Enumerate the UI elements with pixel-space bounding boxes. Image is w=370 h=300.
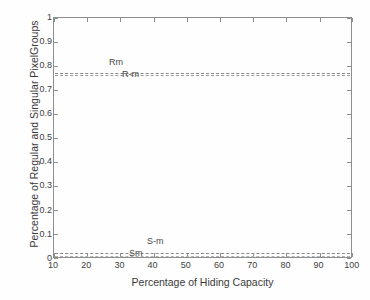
- y-tick-mark-right-09: [347, 42, 351, 43]
- y-tick-mark-right-03: [347, 186, 351, 187]
- y-tick-label-02: 0.2: [39, 206, 52, 215]
- series-line-sm: [55, 256, 350, 257]
- x-tick-mark-top-80: [286, 18, 287, 22]
- x-tick-label-10: 10: [48, 261, 58, 270]
- y-tick-mark-06: [54, 114, 58, 115]
- annotation-rm: Rm: [109, 58, 123, 67]
- x-tick-mark-top-60: [220, 18, 221, 22]
- figure-canvas: Percentage of Regular and Singular Pixel…: [0, 0, 370, 300]
- y-tick-mark-09: [54, 42, 58, 43]
- y-tick-mark-right-1: [347, 18, 351, 19]
- y-tick-mark-02: [54, 210, 58, 211]
- x-tick-label-20: 20: [81, 261, 91, 270]
- x-tick-mark-top-20: [87, 18, 88, 22]
- x-tick-label-60: 60: [214, 261, 224, 270]
- series-line-rm: [55, 73, 350, 74]
- y-tick-label-05: 0.5: [39, 133, 52, 142]
- x-tick-mark-top-30: [120, 18, 121, 22]
- x-tick-label-30: 30: [114, 261, 124, 270]
- y-tick-label-01: 0.1: [39, 230, 52, 239]
- y-tick-label-06: 0.6: [39, 109, 52, 118]
- annotation-sm: Sm: [129, 249, 143, 258]
- x-tick-mark-top-40: [154, 18, 155, 22]
- y-tick-mark-03: [54, 186, 58, 187]
- x-tick-label-100: 100: [344, 261, 359, 270]
- annotation-s-m: S-m: [147, 237, 164, 246]
- y-tick-mark-right-02: [347, 210, 351, 211]
- y-tick-mark-right-08: [347, 66, 351, 67]
- y-tick-mark-07: [54, 90, 58, 91]
- y-tick-mark-right-05: [347, 138, 351, 139]
- x-tick-mark-100: [352, 253, 353, 257]
- y-tick-mark-right-07: [347, 90, 351, 91]
- x-tick-mark-top-10: [54, 18, 55, 22]
- y-tick-mark-05: [54, 138, 58, 139]
- annotation-r-m: R-m: [122, 70, 139, 79]
- y-tick-mark-right-06: [347, 114, 351, 115]
- x-tick-mark-top-100: [352, 18, 353, 22]
- y-tick-mark-0: [54, 258, 58, 259]
- y-tick-label-09: 0.9: [39, 37, 52, 46]
- series-line-s-m: [55, 253, 350, 254]
- x-tick-label-40: 40: [148, 261, 158, 270]
- y-tick-mark-08: [54, 66, 58, 67]
- y-axis-title: Percentage of Regular and Singular Pixel…: [28, 14, 40, 254]
- y-tick-mark-right-0: [347, 258, 351, 259]
- x-tick-label-70: 70: [247, 261, 257, 270]
- x-tick-label-50: 50: [181, 261, 191, 270]
- y-tick-label-03: 0.3: [39, 181, 52, 190]
- x-tick-mark-top-50: [187, 18, 188, 22]
- y-tick-label-1: 1: [47, 13, 52, 22]
- x-tick-mark-top-70: [253, 18, 254, 22]
- y-tick-mark-right-04: [347, 162, 351, 163]
- y-tick-label-07: 0.7: [39, 85, 52, 94]
- x-tick-mark-top-90: [320, 18, 321, 22]
- y-tick-mark-01: [54, 234, 58, 235]
- y-tick-mark-right-01: [347, 234, 351, 235]
- x-axis-title: Percentage of Hiding Capacity: [53, 276, 352, 288]
- y-tick-mark-04: [54, 162, 58, 163]
- y-tick-label-04: 0.4: [39, 157, 52, 166]
- series-line-r-m: [55, 75, 350, 76]
- y-tick-label-08: 0.8: [39, 61, 52, 70]
- x-tick-label-90: 90: [314, 261, 324, 270]
- x-tick-label-80: 80: [280, 261, 290, 270]
- plot-area: Rm R-m S-m Sm: [53, 17, 352, 258]
